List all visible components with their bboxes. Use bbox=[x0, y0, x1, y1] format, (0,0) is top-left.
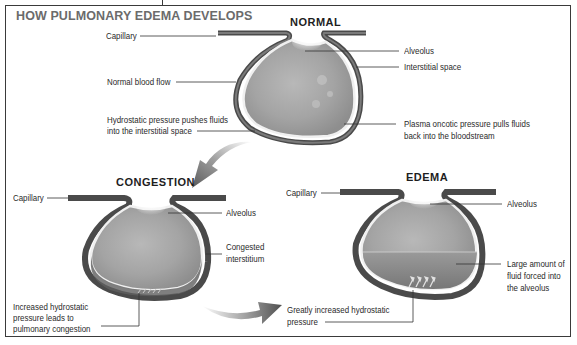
curved-arrow-down-left-icon bbox=[192, 142, 252, 188]
curved-arrow-right-icon bbox=[202, 302, 282, 324]
congestion-capillary-label: Capillary bbox=[13, 193, 44, 204]
hydrostatic-label-line1: Hydrostatic pressure pushes fluids bbox=[107, 115, 228, 126]
diagram-artwork bbox=[0, 0, 577, 345]
fluid-label-line3: the alveolus bbox=[507, 283, 549, 294]
normal-alveolus-label: Alveolus bbox=[404, 46, 434, 57]
edema-alveolus-icon bbox=[340, 191, 496, 297]
congestion-heading: CONGESTION bbox=[116, 176, 195, 188]
interstitial-space-label: Interstitial space bbox=[404, 62, 461, 73]
edema-heading: EDEMA bbox=[406, 171, 448, 183]
edema-alveolus-label: Alveolus bbox=[507, 199, 537, 210]
fluid-label-line1: Large amount of bbox=[507, 259, 565, 270]
increased-label-line1: Increased hydrostatic bbox=[13, 302, 88, 313]
normal-capillary-label: Capillary bbox=[106, 31, 137, 42]
hydrostatic-label-line2: into the interstitial space bbox=[107, 126, 192, 137]
oncotic-label-line2: back into the bloodstream bbox=[404, 131, 495, 142]
normal-blood-flow-label: Normal blood flow bbox=[107, 77, 170, 88]
fluid-label-line2: fluid forced into bbox=[507, 271, 561, 282]
oncotic-label-line1: Plasma oncotic pressure pulls fluids bbox=[404, 119, 530, 130]
congested-label-line1: Congested bbox=[226, 242, 264, 253]
increased-label-line3: pulmonary congestion bbox=[13, 324, 90, 335]
greatly-label-line1: Greatly increased hydrostatic bbox=[287, 305, 390, 316]
congested-label-line2: interstitium bbox=[226, 254, 264, 265]
congestion-alveolus-label: Alveolus bbox=[226, 208, 256, 219]
normal-heading: NORMAL bbox=[290, 16, 341, 28]
greatly-label-line2: pressure bbox=[287, 317, 318, 328]
increased-label-line2: pressure leads to bbox=[13, 313, 74, 324]
normal-alveolus-icon bbox=[218, 33, 366, 143]
edema-capillary-label: Capillary bbox=[286, 188, 317, 199]
congestion-alveolus-icon bbox=[68, 197, 226, 298]
